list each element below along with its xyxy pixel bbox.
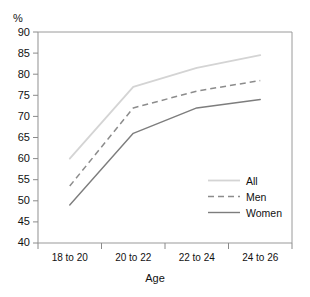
x-tick-label-18-to-20: 18 to 20 xyxy=(38,252,102,264)
y-tick-label-90: 90 xyxy=(4,27,30,38)
y-tick-marks xyxy=(33,32,38,243)
data-series-group xyxy=(70,55,261,205)
series-line-all xyxy=(70,55,261,158)
y-tick-label-65: 65 xyxy=(4,132,30,143)
x-tick-label-24-to-26: 24 to 26 xyxy=(229,252,293,264)
y-tick-label-85: 85 xyxy=(4,48,30,59)
series-line-women xyxy=(70,100,261,206)
y-tick-label-55: 55 xyxy=(4,174,30,185)
y-tick-label-50: 50 xyxy=(4,195,30,206)
legend-swatches xyxy=(208,181,240,213)
y-tick-label-45: 45 xyxy=(4,216,30,227)
x-axis-title: Age xyxy=(0,272,310,285)
chart-container: % xyxy=(0,0,310,297)
x-tick-label-22-to-24: 22 to 24 xyxy=(165,252,229,264)
y-tick-label-60: 60 xyxy=(4,153,30,164)
legend-label-men: Men xyxy=(246,191,266,203)
x-tick-marks xyxy=(38,243,292,249)
y-tick-label-70: 70 xyxy=(4,111,30,122)
x-tick-label-20-to-22: 20 to 22 xyxy=(102,252,166,264)
legend-label-women: Women xyxy=(246,207,282,219)
y-tick-label-75: 75 xyxy=(4,90,30,101)
series-line-men xyxy=(70,81,261,187)
y-tick-label-40: 40 xyxy=(4,237,30,248)
y-tick-label-80: 80 xyxy=(4,69,30,80)
legend-label-all: All xyxy=(246,175,258,187)
